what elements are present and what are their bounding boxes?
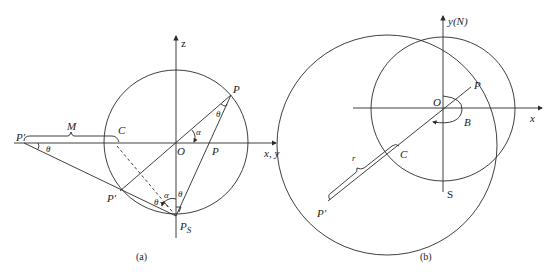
- label-z: z: [181, 37, 186, 49]
- label-p-top: P: [232, 83, 240, 95]
- figure-canvas: z x, y O P P P′ P′ PS C M α α θ θ θ θ (a…: [0, 0, 552, 274]
- label-c-b: C: [400, 148, 408, 160]
- right-angle-mark-left: [161, 203, 168, 207]
- label-origin-b: O: [433, 96, 441, 108]
- label-theta-far: θ: [46, 144, 51, 154]
- label-p-axis: P: [211, 145, 219, 157]
- label-theta-bottom-right: θ: [178, 189, 183, 199]
- caption-a: (a): [136, 251, 147, 263]
- label-alpha-bottom: α: [164, 190, 169, 200]
- label-alpha-origin: α: [196, 127, 201, 137]
- label-ps: PS: [179, 220, 192, 235]
- label-p-prime-circle: P′: [106, 192, 117, 204]
- label-theta-top: θ: [216, 109, 221, 119]
- label-m: M: [66, 120, 77, 132]
- label-c-a: C: [118, 124, 126, 136]
- figure-a: z x, y O P P P′ P′ PS C M α α θ θ θ θ (a…: [14, 36, 279, 263]
- label-x-b: x: [529, 112, 535, 124]
- label-p-prime-far: P′: [15, 131, 26, 143]
- label-theta-bottom-left: θ: [154, 197, 159, 207]
- label-p-b: P: [473, 79, 481, 91]
- figure-b: y(N) x O P P′ C S B r (b): [277, 15, 542, 263]
- label-r: r: [352, 153, 356, 163]
- line-p-pprime-b: [328, 87, 471, 201]
- caption-b: (b): [420, 251, 432, 263]
- label-origin-a: O: [177, 145, 185, 157]
- angle-theta-far-arc: [38, 143, 39, 149]
- label-y-north: y(N): [447, 15, 468, 28]
- angle-alpha-origin-arc: [192, 130, 195, 142]
- label-s: S: [447, 188, 453, 200]
- angle-theta-top-arc: [221, 104, 227, 106]
- label-b: B: [464, 116, 471, 128]
- label-p-prime-b: P′: [316, 207, 327, 219]
- large-circle-b: [277, 35, 497, 255]
